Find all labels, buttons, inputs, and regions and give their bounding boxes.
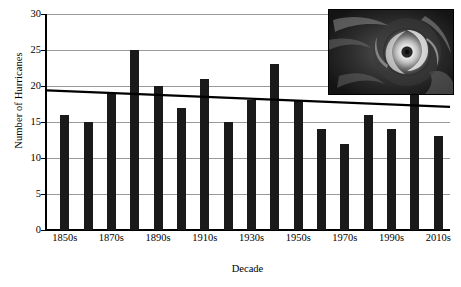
x-axis-tick-label: 1890s — [136, 232, 180, 243]
x-axis-tick-label: 1850s — [43, 232, 87, 243]
y-axis-tick — [41, 230, 46, 231]
y-axis-tick-label: 30 — [7, 9, 41, 19]
y-axis-tick-labels: 051015202530 — [3, 14, 41, 234]
y-axis-tick-label: 25 — [7, 45, 41, 55]
x-axis-tick-labels: 1850s1870s1890s1910s1930s1950s1970s1990s… — [45, 232, 450, 248]
y-axis-tick-label: 15 — [7, 117, 41, 127]
x-axis-tick-label: 1910s — [183, 232, 227, 243]
x-axis-tick-label: 1870s — [89, 232, 133, 243]
x-axis-tick-label: 1970s — [323, 232, 367, 243]
x-axis-tick-label: 1950s — [276, 232, 320, 243]
y-axis-tick-label: 10 — [7, 153, 41, 163]
y-axis-tick-label: 20 — [7, 81, 41, 91]
hurricanes-per-decade-chart: Number of Hurricanes 051015202530 1850s1… — [0, 0, 461, 287]
x-axis-tick-label: 2010s — [416, 232, 460, 243]
x-axis-tick-label: 1930s — [230, 232, 274, 243]
y-axis-tick-label: 5 — [7, 189, 41, 199]
y-axis-tick-label: 0 — [7, 225, 41, 235]
x-axis-tick-label: 1990s — [370, 232, 414, 243]
x-axis-title: Decade — [45, 263, 450, 274]
hurricane-satellite-image — [328, 9, 454, 95]
